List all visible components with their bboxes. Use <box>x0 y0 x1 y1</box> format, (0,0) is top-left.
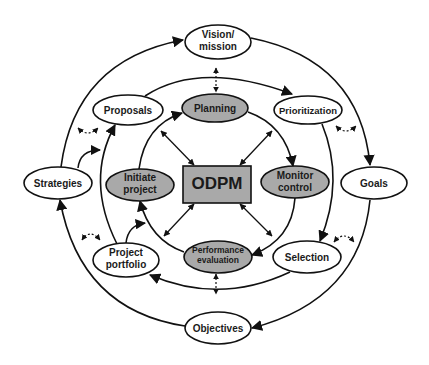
svg-text:mission: mission <box>199 41 237 52</box>
node-monitor-control[interactable]: Monitor control <box>261 166 329 198</box>
node-vision-mission[interactable]: Vision/ mission <box>185 25 251 59</box>
node-planning[interactable]: Planning <box>182 94 248 122</box>
svg-text:Project: Project <box>109 247 144 258</box>
svg-text:Performance: Performance <box>192 245 244 255</box>
svg-text:Selection: Selection <box>285 252 329 263</box>
svg-text:Monitor: Monitor <box>277 170 314 181</box>
node-goals[interactable]: Goals <box>341 167 407 199</box>
svg-text:control: control <box>278 182 312 193</box>
node-performance-evaluation[interactable]: Performance evaluation <box>184 241 252 273</box>
svg-text:Prioritization: Prioritization <box>279 105 337 116</box>
node-initiate-project[interactable]: Initiate project <box>106 169 174 201</box>
odpm-label: ODPM <box>192 174 243 193</box>
node-strategies[interactable]: Strategies <box>24 167 92 199</box>
svg-text:Proposals: Proposals <box>104 105 153 116</box>
svg-text:Planning: Planning <box>194 103 236 114</box>
node-proposals[interactable]: Proposals <box>93 95 163 125</box>
svg-text:Vision/: Vision/ <box>202 29 235 40</box>
node-selection[interactable]: Selection <box>273 241 341 273</box>
svg-text:evaluation: evaluation <box>197 255 239 265</box>
svg-text:Initiate: Initiate <box>124 172 157 183</box>
node-prioritization[interactable]: Prioritization <box>274 96 342 124</box>
svg-text:project: project <box>123 184 157 195</box>
svg-text:Objectives: Objectives <box>193 323 244 334</box>
svg-text:Goals: Goals <box>360 178 388 189</box>
odpm-center-box[interactable]: ODPM <box>183 166 251 203</box>
node-project-portfolio[interactable]: Project portfolio <box>93 243 159 277</box>
odpm-cycle-diagram: ODPM Vision/ mission Goals Objectives St… <box>0 0 429 365</box>
svg-text:portfolio: portfolio <box>106 259 147 270</box>
svg-text:Strategies: Strategies <box>34 178 83 189</box>
node-objectives[interactable]: Objectives <box>185 312 251 344</box>
